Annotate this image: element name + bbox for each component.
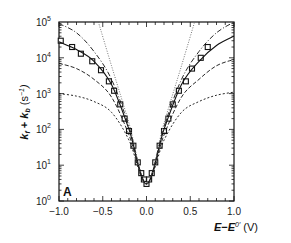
data-marker [205, 45, 210, 50]
series-line [59, 36, 234, 184]
x-tick-label: −1.0 [49, 206, 69, 217]
panel-label: A [63, 185, 72, 199]
series-layer [58, 22, 234, 186]
x-tick-label: −0.5 [93, 206, 113, 217]
svg-text:E−E0′ (V): E−E0′ (V) [214, 221, 258, 233]
series-line [98, 22, 194, 184]
y-tick-label: 101 [36, 158, 51, 171]
series-line [59, 92, 234, 184]
x-tick-label: 0.0 [140, 206, 154, 217]
y-tick-label: 103 [36, 87, 51, 100]
y-tick-labels: 100101102103104105 [36, 15, 51, 207]
x-tick-label: 0.5 [183, 206, 197, 217]
x-tick-labels: −1.0−0.50.00.51.0 [49, 206, 241, 217]
series-line [59, 59, 234, 183]
y-tick-label: 105 [36, 15, 51, 28]
y-axis-title: kf + kb (s−1) [18, 84, 31, 140]
y-tick-label: 104 [36, 51, 51, 64]
y-tick-label: 102 [36, 122, 51, 135]
x-tick-label: 1.0 [227, 206, 241, 217]
svg-text:kf + kb (s−1): kf + kb (s−1) [18, 84, 31, 140]
x-axis-title: E−E0′ (V) [214, 221, 258, 233]
rate-constant-chart: 100101102103104105 −1.0−0.50.00.51.0 A k… [0, 0, 291, 243]
